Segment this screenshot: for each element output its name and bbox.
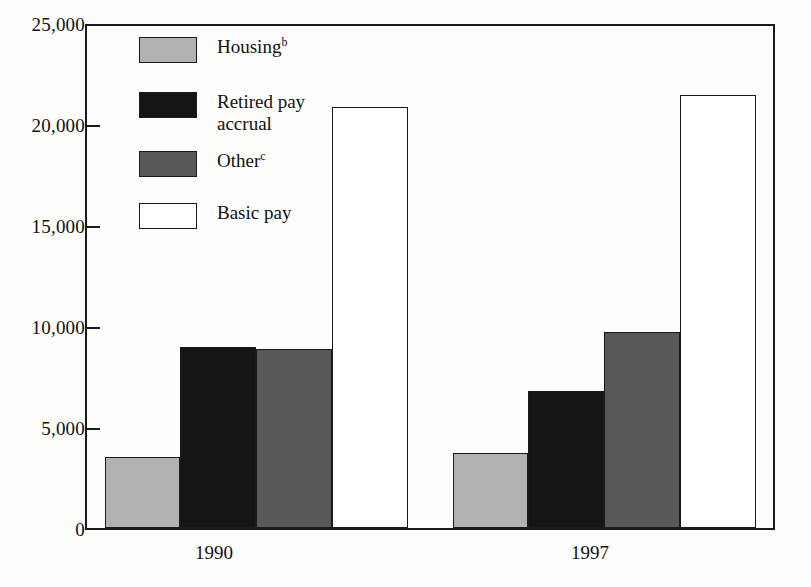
legend-swatch-housing-icon bbox=[139, 37, 197, 63]
legend-label-retired-pay-accrual: Retired pay accrual bbox=[217, 91, 305, 135]
bar-1990-housing bbox=[105, 457, 180, 528]
y-tick-label-25000: 25,000 bbox=[7, 15, 85, 34]
bar-1997-retired-pay-accrual bbox=[528, 391, 604, 528]
legend-label-other: Otherc bbox=[217, 150, 266, 172]
legend-swatch-other-icon bbox=[139, 151, 197, 177]
legend-item-other: Otherc bbox=[139, 150, 266, 177]
y-tick-label-0: 0 bbox=[7, 520, 85, 539]
plot-frame-right-edge bbox=[773, 24, 775, 530]
bar-1990-other bbox=[256, 349, 332, 528]
legend-item-housing: Housingb bbox=[139, 36, 287, 63]
legend-footnote-marker-b: b bbox=[281, 35, 287, 49]
bar-1990-retired-pay-accrual bbox=[180, 347, 256, 528]
legend-label-housing: Housingb bbox=[217, 36, 287, 58]
y-axis: 25,000 20,000 15,000 10,000 5,000 0 bbox=[0, 0, 85, 587]
bar-1997-housing bbox=[453, 453, 528, 528]
legend-item-basic-pay: Basic pay bbox=[139, 202, 291, 229]
bar-1997-other bbox=[604, 332, 680, 528]
x-tick-label-1997: 1997 bbox=[530, 543, 650, 563]
y-tick-label-5000: 5,000 bbox=[7, 419, 85, 438]
y-tick-label-10000: 10,000 bbox=[7, 318, 85, 337]
legend-swatch-retired-pay-accrual-icon bbox=[139, 92, 197, 118]
legend-swatch-basic-pay-icon bbox=[139, 203, 197, 229]
bar-1997-basic-pay bbox=[680, 95, 756, 528]
legend-footnote-marker-c: c bbox=[260, 149, 265, 163]
x-tick-label-1990: 1990 bbox=[154, 543, 274, 563]
legend-item-retired-pay-accrual: Retired pay accrual bbox=[139, 91, 305, 135]
chart-page: 25,000 20,000 15,000 10,000 5,000 0 1990… bbox=[0, 0, 811, 587]
legend-label-basic-pay: Basic pay bbox=[217, 202, 291, 224]
bar-1990-basic-pay bbox=[332, 107, 408, 528]
y-tick-label-20000: 20,000 bbox=[7, 116, 85, 135]
y-tick-label-15000: 15,000 bbox=[7, 217, 85, 236]
